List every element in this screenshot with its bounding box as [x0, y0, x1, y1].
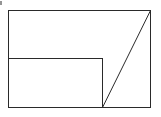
inner-rectangle: [9, 59, 103, 108]
geometry-diagram: [0, 0, 161, 117]
diagonal-line: [103, 11, 151, 108]
